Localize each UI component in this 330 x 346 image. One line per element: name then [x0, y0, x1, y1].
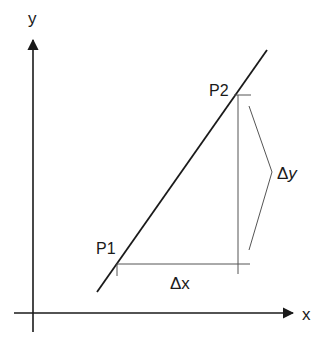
- dx-label: Δx: [170, 274, 190, 293]
- p2-label: P2: [209, 82, 229, 99]
- p1-label: P1: [96, 240, 116, 257]
- slope-diagram: y x P1 P2 Δx Δy: [0, 0, 330, 346]
- x-axis-label: x: [302, 305, 311, 324]
- dy-label: Δy: [277, 164, 298, 183]
- sloped-line: [97, 50, 267, 292]
- y-axis-label: y: [28, 9, 37, 28]
- dy-variable: y: [287, 164, 298, 183]
- diagram-svg: y x P1 P2 Δx Δy: [0, 0, 330, 346]
- dy-delta-symbol: Δ: [277, 164, 288, 183]
- delta-guides: [117, 95, 272, 276]
- dy-brace: [249, 106, 272, 250]
